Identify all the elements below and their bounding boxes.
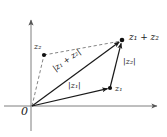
point-label-z1: z₁ (115, 85, 122, 93)
origin-label: 0 (21, 106, 28, 117)
point-z1-marker (108, 86, 112, 90)
point-label-z1-plus-z2: z₁ + z₂ (129, 33, 159, 42)
z1-to-sum-vector (110, 43, 121, 88)
z2-to-sum-dashed (44, 41, 121, 55)
complex-plane-triangle-inequality-figure: 0 z₂ z₁ z₁ + z₂ |z₁| |z₂| |z₁ + z₂| (0, 0, 167, 137)
magnitude-label-abs-z2: |z₂| (123, 58, 136, 66)
point-z1plusz2-marker (120, 38, 125, 43)
point-label-z2: z₂ (34, 43, 41, 51)
point-z2-marker (42, 53, 46, 57)
magnitude-label-abs-z1: |z₁| (68, 82, 81, 90)
